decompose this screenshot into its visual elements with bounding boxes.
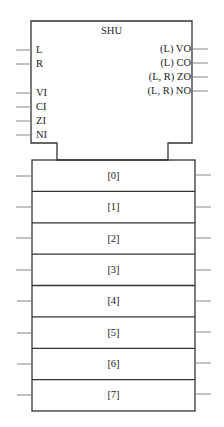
output-stubs: [192, 49, 208, 91]
input-label-ni: NI: [36, 129, 47, 141]
register-2: [2]: [32, 233, 195, 244]
output-label-no: (L, R) NO: [148, 85, 191, 97]
register-6: [6]: [32, 358, 195, 369]
register-4: [4]: [32, 295, 195, 306]
register-0: [0]: [32, 170, 195, 181]
output-label-zo: (L, R) ZO: [149, 71, 191, 83]
register-7: [7]: [32, 389, 195, 400]
register-5: [5]: [32, 327, 195, 338]
register-3: [3]: [32, 264, 195, 275]
unit-title: SHU: [31, 25, 192, 36]
output-label-co: (L) CO: [160, 57, 191, 69]
input-stubs: [16, 50, 31, 135]
input-label-r: R: [36, 58, 43, 70]
input-label-ci: CI: [36, 101, 47, 113]
input-label-l: L: [36, 44, 42, 56]
input-label-vi: VI: [36, 87, 47, 99]
output-label-vo: (L) VO: [160, 43, 191, 55]
input-label-zi: ZI: [36, 115, 46, 127]
register-stack: [32, 160, 195, 411]
register-1: [1]: [32, 201, 195, 212]
